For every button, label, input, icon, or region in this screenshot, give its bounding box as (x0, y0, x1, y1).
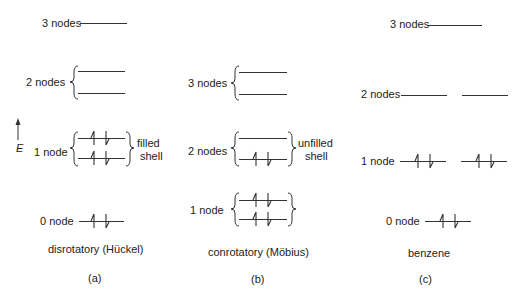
electron-pair-icon (253, 193, 271, 207)
electron-pair-icon (440, 214, 458, 228)
left-brace-icon (231, 193, 239, 226)
right-brace-icon (288, 193, 296, 226)
left-brace-icon (231, 66, 239, 100)
diagram-graphics (0, 0, 519, 295)
right-brace-icon (126, 132, 134, 166)
electron-pair-icon (415, 154, 433, 168)
electron-pair-icon (91, 151, 109, 165)
electron-pair-icon (253, 212, 271, 226)
left-brace-icon (70, 66, 78, 99)
electron-pair-icon (91, 131, 109, 145)
energy-axis-arrow-icon (16, 118, 21, 140)
left-brace-icon (231, 132, 239, 166)
electron-pair-icon (91, 214, 109, 228)
right-brace-icon (288, 132, 296, 166)
left-brace-icon (70, 132, 78, 166)
electron-pair-icon (476, 154, 494, 168)
electron-pair-icon (253, 152, 271, 166)
